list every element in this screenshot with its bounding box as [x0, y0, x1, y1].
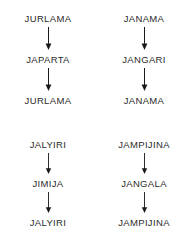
chain-bottom-left: JALYIRI JIMIJA JALYIRI: [0, 114, 96, 228]
down-arrow-icon: [44, 27, 53, 51]
chain-term: JURLAMA: [25, 13, 72, 24]
chain-term: JANAMA: [124, 13, 165, 24]
chain-term: JALYIRI: [30, 139, 67, 150]
chain-top-right: JANAMA JANGARI JANAMA: [96, 0, 192, 114]
chain-grid: JURLAMA JAPARTA JURLAMA JANAMA JANGARI: [0, 0, 192, 228]
chain-bottom-right: JAMPIJINA JANGALA JAMPIJINA: [96, 114, 192, 228]
down-arrow-icon: [44, 192, 53, 214]
chain-top-left: JURLAMA JAPARTA JURLAMA: [0, 0, 96, 114]
chain-term: JANAMA: [124, 95, 165, 106]
chain-term: JAMPIJINA: [118, 139, 170, 150]
down-arrow-icon: [140, 27, 149, 51]
chain-term: JIMIJA: [32, 178, 63, 189]
chain-term: JAPARTA: [26, 54, 70, 65]
chain-term: JANGALA: [121, 178, 167, 189]
down-arrow-icon: [44, 68, 53, 92]
down-arrow-icon: [140, 192, 149, 214]
chain-term: JALYIRI: [30, 217, 67, 228]
chain-term: JANGARI: [122, 54, 166, 65]
derivation-diagram: JURLAMA JAPARTA JURLAMA JANAMA JANGARI: [0, 0, 192, 228]
chain-term: JAMPIJINA: [118, 217, 170, 228]
down-arrow-icon: [44, 153, 53, 175]
chain-term: JURLAMA: [25, 95, 72, 106]
down-arrow-icon: [140, 68, 149, 92]
down-arrow-icon: [140, 153, 149, 175]
